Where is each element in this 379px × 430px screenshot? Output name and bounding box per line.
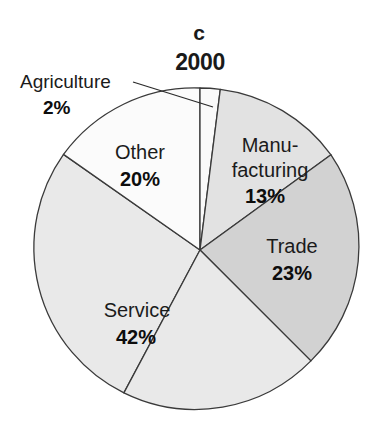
- chart-year-title: 2000: [175, 49, 225, 75]
- chart-panel-letter: c: [193, 21, 205, 44]
- service-label-name: Service: [104, 299, 171, 321]
- other-label-name: Other: [115, 141, 165, 163]
- manufacturing-label-percent: 13%: [245, 185, 285, 207]
- agriculture-label-percent: 2%: [43, 97, 71, 118]
- agriculture-label-name: Agriculture: [20, 71, 111, 92]
- trade-label-name: Trade: [266, 235, 318, 257]
- pie-chart-svg: c 2000 Agriculture 2% Manu- facturing 13…: [0, 0, 379, 430]
- service-label-percent: 42%: [116, 326, 156, 348]
- manufacturing-label-line1: Manu-: [242, 134, 299, 156]
- other-label-percent: 20%: [120, 168, 160, 190]
- trade-label-percent: 23%: [272, 262, 312, 284]
- manufacturing-label-line2: facturing: [232, 159, 309, 181]
- pie-chart-figure: c 2000 Agriculture 2% Manu- facturing 13…: [0, 0, 379, 430]
